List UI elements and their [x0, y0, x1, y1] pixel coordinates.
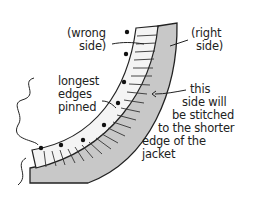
label-right-side: (right side)	[191, 27, 223, 53]
label-wrong-side: (wrong side)	[67, 27, 106, 53]
label-longest-edges-pinned: longest edges pinned	[58, 75, 99, 114]
sewing-illustration: (wrong side) (right side) longest edges …	[0, 0, 253, 213]
label-stitch-note: this side will be stitched to the shorte…	[142, 83, 234, 161]
